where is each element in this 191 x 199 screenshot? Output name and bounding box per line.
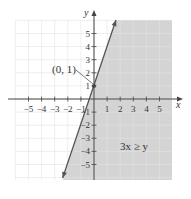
- x-tick-label: −4: [37, 104, 47, 114]
- y-tick-label: −4: [80, 146, 90, 156]
- inequality-label: 3x ≥ y: [120, 140, 149, 152]
- x-axis-label: x: [175, 99, 181, 110]
- x-tick-label: −3: [50, 104, 60, 114]
- y-tick-label: 3: [86, 55, 91, 65]
- y-tick-label: −1: [80, 107, 90, 117]
- x-tick-label: 3: [131, 104, 136, 114]
- x-tick-label: −2: [63, 104, 73, 114]
- inequality-graph: −5−4−3−2−112345−5−4−3−2−112345 x y (0, 1…: [0, 0, 191, 199]
- y-tick-label: 2: [86, 68, 91, 78]
- y-axis-label: y: [83, 7, 89, 18]
- y-tick-label: −2: [80, 120, 90, 130]
- point-marker: [92, 84, 96, 88]
- x-tick-label: 2: [118, 104, 123, 114]
- y-tick-label: 4: [86, 42, 91, 52]
- y-tick-label: −5: [80, 160, 90, 170]
- point-annotation: (0, 1): [52, 63, 76, 76]
- y-tick-label: −3: [80, 133, 90, 143]
- y-tick-label: 1: [86, 81, 91, 91]
- y-tick-label: 5: [86, 29, 91, 39]
- x-tick-label: 5: [157, 104, 162, 114]
- shaded-region: [63, 20, 172, 180]
- x-tick-label: −5: [24, 104, 34, 114]
- x-tick-label: 1: [105, 104, 110, 114]
- shaded-polygon: [63, 20, 172, 180]
- x-tick-label: 4: [144, 104, 149, 114]
- annotation-leader: [76, 70, 93, 84]
